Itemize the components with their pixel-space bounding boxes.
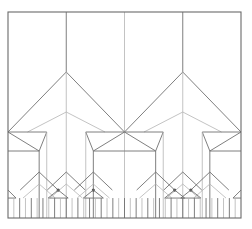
v-diagonal	[156, 132, 164, 151]
small-chevron-right	[39, 172, 58, 190]
small-chevron-left	[74, 172, 93, 190]
chevron-right	[66, 72, 124, 132]
small-v	[191, 190, 201, 198]
small-chevron-inner-left	[194, 184, 210, 198]
small-v	[58, 190, 68, 198]
small-chevron-right	[183, 172, 202, 190]
small-chevron-right	[210, 172, 229, 190]
small-chevron-right	[93, 172, 112, 190]
small-chevron-right	[66, 172, 85, 190]
edge-v	[233, 190, 241, 198]
small-v	[165, 190, 175, 198]
small-chevron-left	[20, 172, 39, 190]
small-v	[175, 190, 185, 198]
v-diagonal	[86, 132, 94, 151]
chevron-right	[183, 72, 241, 132]
v-diagonal	[210, 132, 241, 151]
inner-chevron-right	[66, 112, 105, 132]
small-chevron-inner-left	[23, 184, 39, 198]
small-chevron-left	[191, 172, 210, 190]
chevron-left	[125, 72, 183, 132]
small-chevron-right	[156, 172, 175, 190]
small-chevron-left	[164, 172, 183, 190]
edge-v	[8, 190, 16, 198]
small-chevron-inner-right	[210, 184, 226, 198]
small-chevron-inner-left	[140, 184, 156, 198]
small-chevron-left	[47, 172, 66, 190]
inner-chevron-left	[28, 112, 67, 132]
inner-chevron-left	[144, 112, 183, 132]
crease-pattern-diagram	[0, 0, 252, 229]
crease-lines	[8, 12, 241, 218]
v-diagonal	[39, 132, 47, 151]
v-diagonal	[202, 132, 210, 151]
small-v	[48, 190, 58, 198]
v-diagonal	[125, 132, 156, 151]
chevron-left	[8, 72, 66, 132]
small-v	[181, 190, 191, 198]
small-chevron-left	[137, 172, 156, 190]
v-diagonal	[8, 132, 39, 151]
v-diagonal	[93, 132, 124, 151]
inner-chevron-right	[183, 112, 222, 132]
